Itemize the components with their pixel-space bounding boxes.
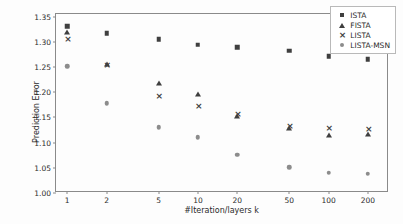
y-tick-label: 1.10 (34, 138, 51, 147)
data-point-lista-msn (326, 171, 331, 176)
data-point-ista (326, 54, 331, 59)
data-point-ista (235, 45, 240, 50)
y-tick-label: 1.15 (34, 113, 51, 122)
data-point-lista-msn (366, 172, 371, 177)
data-point-lista-msn (287, 165, 292, 170)
data-point-lista (326, 125, 332, 131)
x-tick-label: 50 (284, 196, 294, 205)
x-tick-label: 2 (104, 196, 109, 205)
x-tick-mark (289, 191, 290, 194)
x-tick-label: 5 (156, 196, 161, 205)
x-tick-mark (328, 191, 329, 194)
y-tick-label: 1.00 (34, 189, 51, 198)
data-point-lista-msn (156, 125, 161, 130)
y-tick-mark (53, 167, 56, 168)
legend-label: LISTA-MSN (350, 41, 390, 50)
data-point-lista (286, 123, 292, 129)
y-tick-mark (53, 16, 56, 17)
legend-item-fista: FISTA (335, 20, 390, 30)
x-tick-label: 10 (193, 196, 203, 205)
x-tick-label: 20 (232, 196, 242, 205)
data-point-lista-msn (104, 101, 109, 106)
x-tick-mark (106, 191, 107, 194)
y-tick-label: 1.30 (34, 37, 51, 46)
y-tick-mark (53, 66, 56, 67)
y-tick-mark (53, 142, 56, 143)
data-point-lista-msn (65, 64, 70, 69)
x-tick-label: 200 (361, 196, 375, 205)
y-tick-mark (53, 193, 56, 194)
figure: Prediction Error #Iteration/layers k 1.0… (0, 0, 403, 224)
x-tick-mark (67, 191, 68, 194)
legend-label: FISTA (350, 21, 370, 30)
x-tick-mark (237, 191, 238, 194)
data-point-ista (287, 49, 292, 54)
data-point-lista (195, 103, 201, 109)
legend-marker-x-icon (335, 32, 348, 38)
data-point-fista (156, 80, 162, 85)
legend-item-ista: ISTA (335, 10, 390, 20)
data-point-lista (64, 36, 70, 42)
x-tick-label: 100 (321, 196, 335, 205)
y-tick-mark (53, 117, 56, 118)
x-tick-mark (197, 191, 198, 194)
data-point-ista (366, 57, 371, 62)
legend-marker-circle-icon (335, 43, 348, 48)
data-point-lista-msn (235, 152, 240, 157)
y-tick-label: 1.25 (34, 62, 51, 71)
data-point-lista (234, 111, 240, 117)
legend-marker-triangle-icon (335, 23, 348, 28)
x-axis-label: #Iteration/layers k (55, 206, 388, 215)
legend-label: ISTA (350, 11, 366, 20)
x-tick-mark (158, 191, 159, 194)
data-point-lista (156, 93, 162, 99)
y-tick-label: 1.20 (34, 88, 51, 97)
data-point-ista (65, 24, 70, 29)
x-tick-label: 1 (65, 196, 70, 205)
data-point-ista (156, 37, 161, 42)
y-tick-mark (53, 41, 56, 42)
data-point-fista (195, 92, 201, 97)
data-point-ista (196, 43, 201, 48)
y-tick-label: 1.05 (34, 163, 51, 172)
legend-item-lista: LISTA (335, 30, 390, 40)
data-point-lista-msn (196, 135, 201, 140)
x-tick-mark (367, 191, 368, 194)
legend-marker-square-icon (335, 13, 348, 18)
y-tick-label: 1.35 (34, 12, 51, 21)
legend-label: LISTA (350, 31, 370, 40)
y-tick-mark (53, 92, 56, 93)
data-point-lista (365, 126, 371, 132)
legend: ISTAFISTALISTALISTA-MSN (330, 6, 396, 54)
data-point-ista (104, 31, 109, 36)
legend-item-lista-msn: LISTA-MSN (335, 40, 390, 50)
data-point-lista (104, 62, 110, 68)
